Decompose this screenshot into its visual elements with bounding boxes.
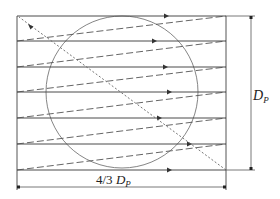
arrow-right-icon (167, 90, 172, 95)
diagonal-dotted-line (19, 17, 226, 170)
retrace-line (17, 144, 226, 170)
arrow-right-icon (152, 39, 157, 44)
width-label-main: D (116, 172, 125, 187)
dimension-end-marker (17, 186, 20, 189)
retrace-line (17, 41, 226, 67)
retrace-line (17, 118, 226, 144)
dimension-end-marker (250, 167, 253, 170)
scan-diagram (0, 0, 280, 199)
width-label-sub: P (125, 179, 131, 189)
arrow-right-icon (167, 168, 172, 173)
width-label: 4/3 DP (96, 172, 131, 188)
scan-frame (17, 16, 226, 190)
arrow-right-icon (187, 142, 192, 147)
retrace-line (17, 67, 226, 92)
retrace-line (17, 16, 226, 41)
arrow-right-icon (164, 14, 169, 19)
diagonal-line (19, 17, 226, 170)
height-label-main: D (253, 88, 263, 103)
arrow-right-icon (163, 65, 168, 70)
arrow-up-left-icon (28, 24, 34, 30)
dimension-end-marker (223, 186, 226, 189)
width-label-prefix: 4/3 (96, 172, 116, 187)
height-label: DP (253, 88, 269, 104)
dimension-end-marker (250, 16, 253, 19)
height-label-sub: P (263, 95, 269, 105)
